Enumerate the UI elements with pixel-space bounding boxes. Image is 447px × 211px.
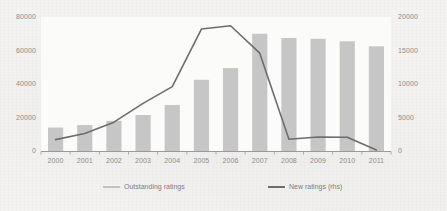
bar-2003: [136, 115, 151, 151]
legend-label-new-ratings: New ratings (rhs): [289, 183, 342, 190]
legend-label-outstanding-ratings: Outstanding ratings: [124, 183, 185, 190]
bar-2004: [165, 105, 180, 151]
bar-2007: [252, 34, 267, 151]
bar-2005: [194, 80, 209, 151]
x-axis-tick-2011: 2011: [356, 157, 396, 164]
right-axis-tick-10000: 10000: [398, 80, 438, 87]
left-axis-tick-0: 0: [2, 147, 36, 154]
line-series-new-ratings: [56, 26, 377, 150]
bar-series-outstanding-ratings: [48, 34, 384, 151]
bar-2010: [340, 41, 355, 151]
legend-swatch-line-icon: [268, 186, 285, 188]
left-axis-tick-40000: 40000: [2, 80, 36, 87]
bar-2011: [369, 46, 384, 151]
left-axis-tick-20000: 20000: [2, 114, 36, 121]
left-axis-tick-60000: 60000: [2, 47, 36, 54]
legend-swatch-bar-icon: [103, 186, 120, 188]
bar-2008: [281, 38, 296, 151]
chart-legend: Outstanding ratings New ratings (rhs): [0, 182, 447, 200]
bar-2006: [223, 68, 238, 151]
right-axis-tick-5000: 5000: [398, 114, 438, 121]
right-axis-tick-20000: 20000: [398, 13, 438, 20]
chart-figure: 020000400006000080000 050001000015000200…: [0, 0, 447, 211]
right-axis-tick-15000: 15000: [398, 47, 438, 54]
bar-2002: [106, 121, 121, 151]
right-axis-tick-0: 0: [398, 147, 438, 154]
bar-2001: [77, 125, 92, 151]
combo-chart-canvas: [0, 0, 447, 211]
left-axis-tick-80000: 80000: [2, 13, 36, 20]
legend-item-new-ratings[interactable]: New ratings (rhs): [268, 183, 342, 190]
legend-item-outstanding-ratings[interactable]: Outstanding ratings: [103, 183, 185, 190]
bar-2009: [311, 39, 326, 151]
